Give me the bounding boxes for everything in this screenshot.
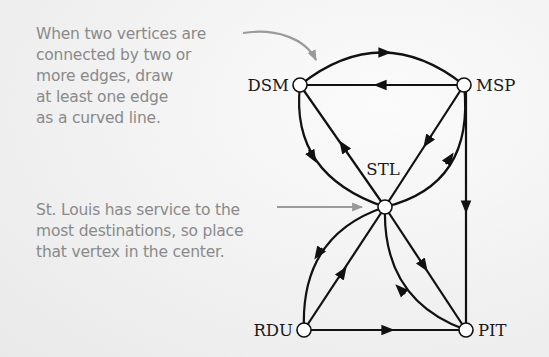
vertex-label-rdu: RDU bbox=[253, 321, 293, 340]
edge-stl-dsm bbox=[300, 85, 385, 207]
edge-rdu-stl bbox=[304, 207, 385, 330]
edge-msp-stl bbox=[385, 85, 464, 207]
vertex-pit bbox=[459, 323, 473, 337]
vertex-label-msp: MSP bbox=[476, 76, 515, 95]
edge-stl-pit bbox=[385, 207, 466, 330]
vertex-msp bbox=[457, 78, 471, 92]
vertex-rdu bbox=[297, 323, 311, 337]
arrow-icon bbox=[400, 289, 405, 294]
airline-route-digraph: DSM MSP STL RDU PIT bbox=[0, 0, 549, 357]
vertex-label-dsm: DSM bbox=[248, 76, 290, 95]
callout-arrow-curved-edges bbox=[243, 32, 316, 60]
arrow-icon bbox=[427, 136, 431, 142]
vertex-dsm bbox=[293, 78, 307, 92]
vertex-label-pit: PIT bbox=[478, 321, 507, 340]
vertex-label-stl: STL bbox=[366, 160, 399, 179]
vertex-stl bbox=[378, 200, 392, 214]
arrow-icon bbox=[446, 158, 450, 164]
edge-dsm-msp bbox=[300, 53, 464, 86]
